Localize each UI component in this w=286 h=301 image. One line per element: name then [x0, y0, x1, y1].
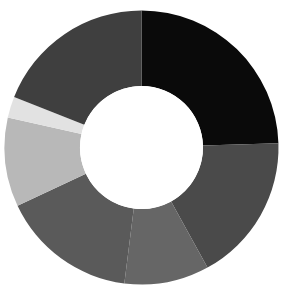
donut-chart-svg — [0, 0, 286, 301]
donut-chart-figure — [0, 0, 286, 301]
donut-center-hole — [80, 86, 203, 209]
